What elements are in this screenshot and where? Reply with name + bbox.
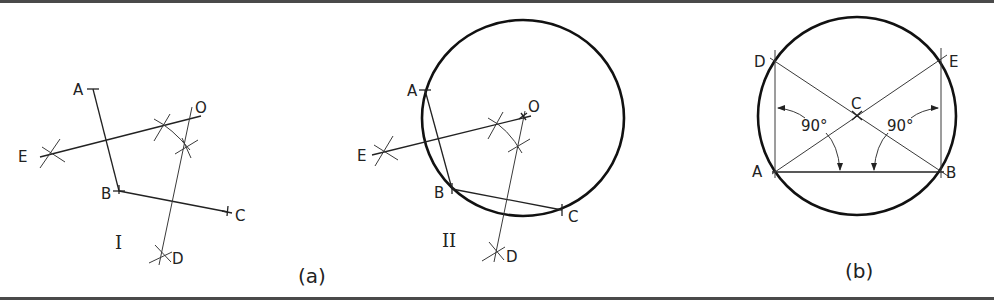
geometric-construction-diagram: A E O B C D I (a) A E O B C (0, 0, 994, 305)
label-c: C (851, 95, 861, 113)
arrowhead-a-top (777, 105, 785, 111)
label-e: E (357, 147, 366, 165)
arc-mark-d1 (149, 252, 172, 263)
bisector-bc (159, 107, 192, 265)
panel-a-step-2: A E O B C D II (357, 20, 624, 266)
label-c: C (568, 208, 578, 226)
label-a: A (73, 81, 84, 99)
panel-b: A B C D E 90° 90° (b) (752, 17, 958, 283)
arc-upper (488, 118, 522, 153)
caption-b: (b) (845, 259, 873, 283)
label-b: B (434, 184, 444, 202)
diagonal-ae (772, 55, 947, 174)
arc-mark-e1 (40, 139, 60, 168)
chord-ab (425, 90, 452, 189)
label-o: O (528, 98, 540, 116)
label-d: D (506, 248, 518, 266)
caption-a: (a) (298, 264, 326, 288)
arrowhead-b-bottom (871, 163, 877, 171)
tick-c-v (227, 206, 228, 216)
bisector-ab (372, 116, 531, 155)
label-b: B (101, 185, 111, 203)
label-d: D (172, 250, 184, 268)
arc-mark-d2 (489, 242, 504, 260)
label-e: E (949, 53, 958, 71)
label-a: A (752, 163, 763, 181)
angle-label-b: 90° (887, 117, 914, 135)
label-e: E (18, 148, 27, 166)
label-a: A (407, 82, 418, 100)
step-label-ii: II (442, 230, 456, 251)
bisector-ab (40, 116, 201, 157)
angle-label-a: 90° (801, 117, 828, 135)
label-b: B (946, 164, 956, 182)
arrowhead-b-top (931, 105, 939, 111)
arrowhead-a-bottom (837, 163, 843, 171)
label-o: O (195, 99, 207, 117)
arc-mark-d1 (482, 247, 505, 261)
step-label-i: I (115, 232, 122, 253)
label-c: C (235, 207, 245, 225)
panel-a-step-1: A E O B C D I (a) (18, 81, 326, 288)
bisector-bc (494, 111, 525, 262)
label-d: D (754, 53, 766, 71)
